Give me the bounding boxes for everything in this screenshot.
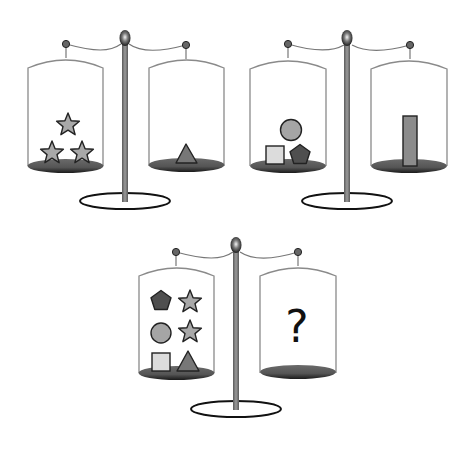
scale-1 bbox=[28, 30, 225, 209]
beam-left bbox=[176, 252, 233, 258]
finial bbox=[120, 30, 131, 46]
beam-left bbox=[66, 44, 121, 50]
square-icon bbox=[152, 353, 170, 371]
hook-knob bbox=[182, 41, 189, 48]
scale-2 bbox=[250, 30, 447, 209]
beam-right bbox=[240, 252, 298, 258]
left-pan bbox=[28, 60, 104, 173]
right-pan: ? bbox=[260, 268, 336, 379]
circle-icon bbox=[151, 323, 171, 343]
finial bbox=[342, 30, 353, 46]
triangle-icon bbox=[177, 351, 199, 371]
hook-knob bbox=[284, 40, 291, 47]
hook-knob bbox=[294, 248, 301, 255]
pentagon-icon bbox=[290, 145, 310, 164]
beam-right bbox=[129, 44, 186, 50]
hook-knob bbox=[62, 40, 69, 47]
triangle-icon bbox=[176, 144, 197, 163]
left-pan bbox=[250, 61, 326, 173]
rectangle-icon bbox=[403, 116, 417, 166]
right-pan bbox=[149, 60, 225, 172]
star-icon bbox=[179, 320, 202, 342]
star-icon bbox=[57, 113, 80, 135]
star-icon bbox=[179, 290, 202, 312]
square-icon bbox=[266, 146, 284, 164]
unknown-question-mark: ? bbox=[285, 301, 308, 352]
beam-right bbox=[352, 45, 410, 50]
scale-pole bbox=[344, 42, 350, 202]
puzzle-canvas: ? bbox=[0, 0, 473, 453]
pentagon-icon bbox=[151, 291, 171, 310]
scale-3: ? bbox=[139, 237, 337, 417]
hook-knob bbox=[406, 41, 413, 48]
beam-left bbox=[288, 44, 344, 50]
right-pan bbox=[371, 61, 447, 173]
circle-icon bbox=[281, 120, 302, 141]
left-pan bbox=[139, 268, 215, 380]
scale-pole bbox=[122, 42, 128, 202]
finial bbox=[231, 237, 242, 253]
scale-pole bbox=[233, 249, 239, 410]
hook-knob bbox=[172, 248, 179, 255]
